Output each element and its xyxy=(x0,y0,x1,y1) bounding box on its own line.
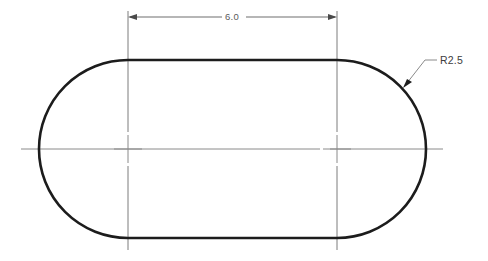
length-dimension-text: 6.0 xyxy=(225,11,239,22)
technical-drawing-canvas: 6.0 R2.5 xyxy=(0,0,488,261)
right-center-mark xyxy=(323,135,351,163)
dimension-arrow-left xyxy=(128,14,137,20)
radius-dimension-text: R2.5 xyxy=(440,54,463,66)
radius-leader-arrow xyxy=(403,79,412,88)
radius-leader-slant xyxy=(407,60,425,83)
radius-leader-group: R2.5 xyxy=(403,54,463,88)
left-center-mark xyxy=(114,135,142,163)
drawing-svg: 6.0 R2.5 xyxy=(0,0,488,261)
dimension-arrow-right xyxy=(328,14,337,20)
length-dimension-group: 6.0 xyxy=(128,11,337,22)
